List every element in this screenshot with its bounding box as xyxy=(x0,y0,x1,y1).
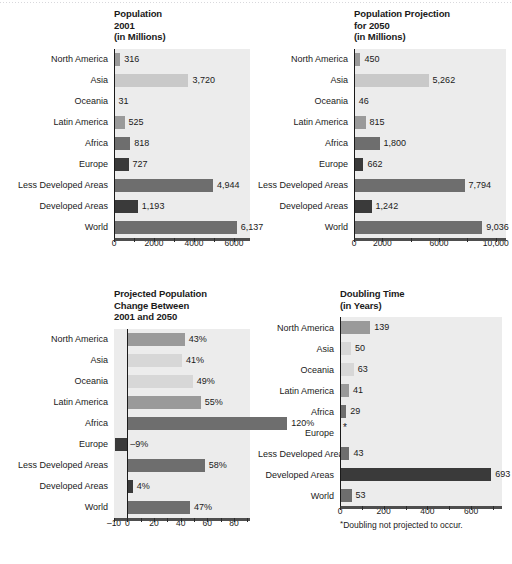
chart-rows: North America139Asia50Oceania63Latin Ame… xyxy=(258,317,510,506)
bar xyxy=(340,489,352,502)
bar-track: 58% xyxy=(114,455,254,476)
bar-value-label: 47% xyxy=(194,501,212,514)
bar-value-label: 1,800 xyxy=(384,137,407,150)
bar xyxy=(114,158,129,171)
category-label: Oceania xyxy=(258,365,340,375)
bar xyxy=(354,179,465,192)
axis-tick xyxy=(127,518,128,522)
bar-value-label: 9,036 xyxy=(486,221,509,234)
bar-value-label: 316 xyxy=(124,53,139,66)
bar-value-label: 120% xyxy=(291,417,314,430)
bar-track: 316 xyxy=(114,49,254,70)
bar-value-label: 63 xyxy=(358,363,368,376)
axis-bar xyxy=(354,238,506,241)
bar-track: 31 xyxy=(114,91,254,112)
category-label: Developed Areas xyxy=(258,470,340,480)
bar-track: 43% xyxy=(114,329,254,350)
chart-row: Africa818 xyxy=(2,133,254,154)
axis-tick xyxy=(134,238,135,242)
bar-value-label: 46 xyxy=(359,95,369,108)
chart-row: World6,137 xyxy=(2,217,254,238)
bar xyxy=(354,158,363,171)
chart-rows: North America316Asia3,720Oceania31Latin … xyxy=(2,49,254,238)
x-axis xyxy=(2,238,254,242)
bar xyxy=(127,354,182,367)
bar-value-label: 818 xyxy=(134,137,149,150)
category-label: North America xyxy=(258,323,340,333)
bar xyxy=(340,321,370,334)
bar-track: 41 xyxy=(340,380,510,401)
bar-track: 53 xyxy=(340,485,510,506)
plot-background xyxy=(354,91,506,112)
bar-value-label: 7,794 xyxy=(469,179,492,192)
bar-track: 4% xyxy=(114,476,254,497)
axis-tick xyxy=(234,518,235,522)
chart-row: North America139 xyxy=(258,317,510,338)
bar-track: 139 xyxy=(340,317,510,338)
category-label: Africa xyxy=(258,407,340,417)
chart-row: Less Developed Areas7,794 xyxy=(258,175,510,196)
bar-track: 55% xyxy=(114,392,254,413)
bar-track: 818 xyxy=(114,133,254,154)
axis-tick xyxy=(406,506,407,510)
axis-tick xyxy=(354,238,355,242)
bar-value-label: 58% xyxy=(209,459,227,472)
bar xyxy=(127,396,200,409)
chart-population-2001: North America316Asia3,720Oceania31Latin … xyxy=(2,49,254,250)
category-label: Africa xyxy=(2,418,114,428)
chart-row: North America316 xyxy=(2,49,254,70)
axis-tick xyxy=(114,518,115,522)
bar-value-label: 139 xyxy=(374,321,389,334)
bar-track: 5,262 xyxy=(354,70,510,91)
bar xyxy=(340,468,491,481)
chart-row: Developed Areas1,242 xyxy=(258,196,510,217)
category-label: Europe xyxy=(258,159,354,169)
axis-tick xyxy=(194,238,195,242)
bar-track: 3,720 xyxy=(114,70,254,91)
bar-track: 120% xyxy=(114,413,254,434)
chart-row: World9,036 xyxy=(258,217,510,238)
top-divider xyxy=(0,2,512,3)
chart-row: Oceania63 xyxy=(258,359,510,380)
category-label: World xyxy=(2,222,114,232)
axis-tick xyxy=(141,518,142,522)
axis-tick xyxy=(496,238,497,242)
bar-track: 662 xyxy=(354,154,510,175)
category-label: Developed Areas xyxy=(2,481,114,491)
chart-row: Latin America815 xyxy=(258,112,510,133)
bar-value-label: 49% xyxy=(197,375,215,388)
bar-track: 815 xyxy=(354,112,510,133)
bar-value-label: 1,193 xyxy=(142,200,165,213)
bar xyxy=(340,447,349,460)
plot-background xyxy=(114,476,250,497)
bar-track: 4,944 xyxy=(114,175,254,196)
bar-track: * xyxy=(340,422,510,443)
axis-tick xyxy=(214,238,215,242)
chart-row: Less Developed Areas4,944 xyxy=(2,175,254,196)
bar-track: 450 xyxy=(354,49,510,70)
bar-track: –9% xyxy=(114,434,254,455)
bar xyxy=(127,375,192,388)
axis-bar xyxy=(340,506,502,509)
category-label: Latin America xyxy=(2,397,114,407)
chart-panel-population-projection-2050: Population Projection for 2050 (in Milli… xyxy=(258,8,510,250)
chart-row: North America450 xyxy=(258,49,510,70)
bar-value-label: –9% xyxy=(130,438,148,451)
bar xyxy=(354,200,372,213)
bar xyxy=(354,116,366,129)
chart-row: Oceania31 xyxy=(2,91,254,112)
category-label: Asia xyxy=(258,75,354,85)
axis-tick xyxy=(439,238,440,242)
bar-value-label: 1,242 xyxy=(376,200,399,213)
axis-tick xyxy=(167,518,168,522)
bar-track: 50 xyxy=(340,338,510,359)
bar xyxy=(114,221,237,234)
footnote-text: Doubling not projected to occur. xyxy=(343,520,463,530)
bar-track: 525 xyxy=(114,112,254,133)
bar xyxy=(114,116,125,129)
x-axis xyxy=(258,506,510,510)
category-label: World xyxy=(258,222,354,232)
zero-baseline xyxy=(354,49,355,238)
bar-value-label: 50 xyxy=(355,342,365,355)
bar-value-label: 43 xyxy=(353,447,363,460)
